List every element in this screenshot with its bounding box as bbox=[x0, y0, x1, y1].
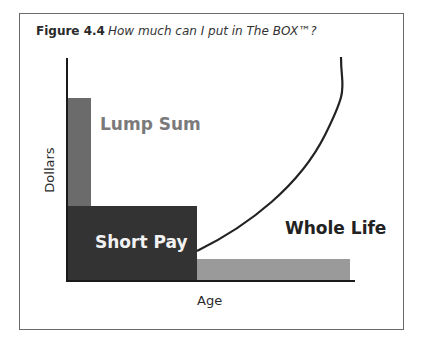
y-axis-label: Dollars bbox=[42, 147, 57, 192]
whole-life-label: Whole Life bbox=[285, 218, 386, 238]
short-pay-label: Short Pay bbox=[95, 232, 188, 252]
lump-sum-label: Lump Sum bbox=[100, 114, 201, 134]
x-axis-label: Age bbox=[197, 293, 222, 308]
whole-life-bar bbox=[197, 259, 350, 281]
